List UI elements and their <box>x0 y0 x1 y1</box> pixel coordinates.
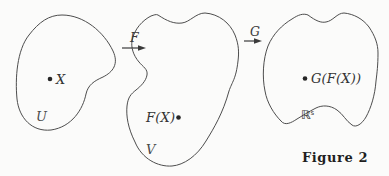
set-v-label: V <box>146 143 156 156</box>
map-g-label: G <box>250 26 260 39</box>
point-x-dot <box>48 77 53 82</box>
figure-2-diagram: X F(X) G(F(X)) U V ℝs F G Figure 2 <box>0 0 389 176</box>
point-gfx-dot <box>303 76 308 81</box>
set-rs-label: ℝs <box>301 109 314 121</box>
set-u-outline <box>16 15 115 130</box>
map-f-label: F <box>130 32 139 45</box>
set-rs-outline <box>263 13 378 126</box>
map-g-arrowhead <box>254 38 262 44</box>
set-u-label: U <box>36 110 47 123</box>
set-rs-superscript: s <box>311 109 315 117</box>
set-v-outline <box>127 13 239 166</box>
point-x-label: X <box>56 73 65 86</box>
point-gfx-label: G(F(X)) <box>311 72 361 85</box>
map-f-arrowhead <box>138 45 146 51</box>
figure-caption: Figure 2 <box>302 151 368 164</box>
point-fx-dot <box>176 115 181 120</box>
set-rs-base: ℝ <box>301 108 311 122</box>
point-fx-label: F(X) <box>146 111 175 124</box>
